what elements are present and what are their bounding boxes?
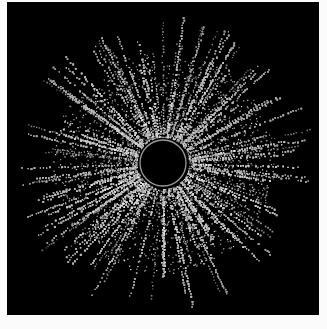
radial-dot-burst	[7, 2, 319, 315]
starburst-image	[7, 2, 319, 315]
